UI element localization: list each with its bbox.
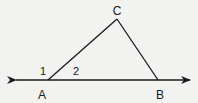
vertex-label-b: B [156,88,164,102]
segment-c-b [117,19,158,80]
vertex-label-a: A [38,88,46,102]
segment-a-c [48,19,117,80]
angle-label-1: 1 [40,65,46,77]
vertex-label-c: C [113,4,122,18]
triangle-diagram: C A B 1 2 [0,0,198,103]
angle-label-2: 2 [73,65,79,77]
diagram-svg: C A B 1 2 [0,0,198,103]
